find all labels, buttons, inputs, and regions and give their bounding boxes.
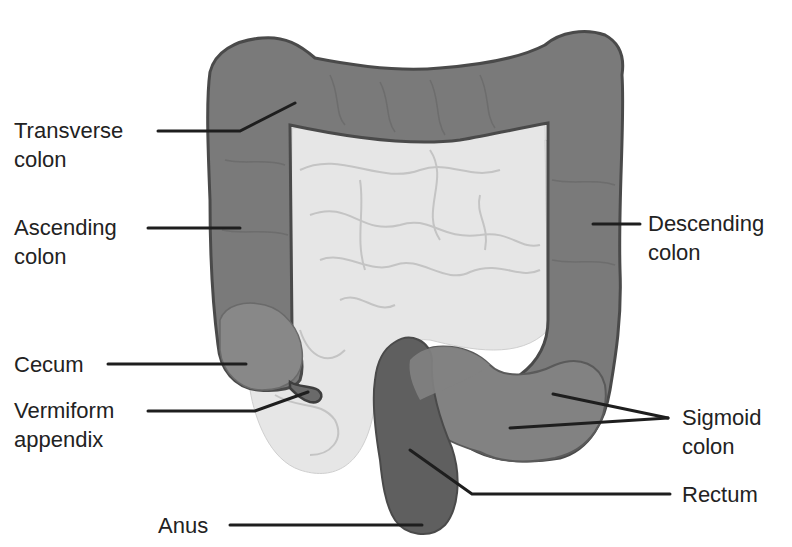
label-anus: Anus — [158, 511, 208, 540]
label-ascending-line1: Ascending — [14, 213, 117, 242]
label-descending-colon: Descending colon — [648, 209, 764, 267]
label-sigmoid-colon: Sigmoid colon — [682, 403, 761, 461]
label-sigmoid-line1: Sigmoid — [682, 403, 761, 432]
large-intestine-diagram — [0, 0, 792, 547]
label-cecum: Cecum — [14, 350, 84, 379]
label-ascending-colon: Ascending colon — [14, 213, 117, 271]
label-transverse-line1: Transverse — [14, 116, 123, 145]
label-sigmoid-line2: colon — [682, 432, 761, 461]
label-appendix-line1: Vermiform — [14, 396, 114, 425]
label-appendix-line2: appendix — [14, 425, 114, 454]
label-ascending-line2: colon — [14, 242, 117, 271]
label-transverse-colon: Transverse colon — [14, 116, 123, 174]
label-rectum-line1: Rectum — [682, 480, 758, 509]
label-transverse-line2: colon — [14, 145, 123, 174]
label-descending-line1: Descending — [648, 209, 764, 238]
label-descending-line2: colon — [648, 238, 764, 267]
label-anus-line1: Anus — [158, 511, 208, 540]
label-rectum: Rectum — [682, 480, 758, 509]
label-cecum-line1: Cecum — [14, 350, 84, 379]
label-vermiform-appendix: Vermiform appendix — [14, 396, 114, 454]
